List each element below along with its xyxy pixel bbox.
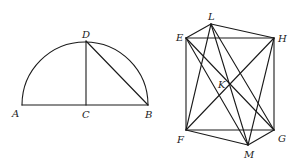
point-label-E: E (175, 32, 184, 43)
point-label-M: M (243, 149, 255, 160)
segment-LH (211, 24, 274, 38)
point-label-G: G (278, 133, 286, 144)
point-label-K: K (217, 79, 226, 90)
semicircle-figure: ACBD (11, 29, 152, 120)
segment-FM (186, 130, 248, 145)
segment-LF (186, 24, 211, 130)
segment-HM (248, 38, 274, 145)
point-label-C: C (82, 109, 90, 120)
point-label-L: L (207, 11, 215, 22)
rectangle-figure: EHFGLMK (175, 11, 287, 160)
semicircle-arc (22, 42, 148, 105)
segment-EL (186, 24, 211, 38)
point-label-F: F (176, 134, 185, 145)
segment-MG (248, 130, 274, 145)
point-label-B: B (144, 109, 152, 120)
point-label-H: H (277, 33, 287, 44)
point-label-A: A (11, 108, 19, 119)
point-label-D: D (81, 29, 90, 40)
geometry-diagram: ACBD EHFGLMK (0, 0, 298, 165)
